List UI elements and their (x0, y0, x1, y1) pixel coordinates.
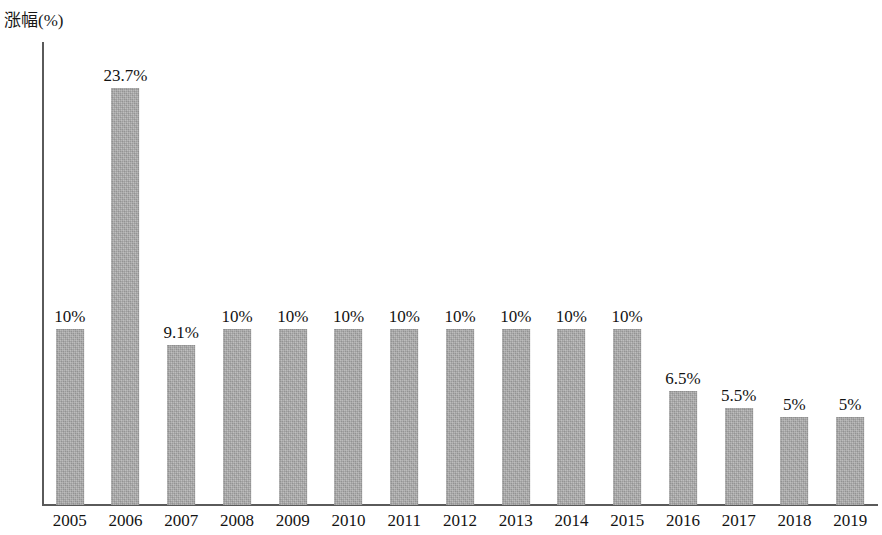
bar-rect[interactable] (557, 329, 585, 505)
bar-rect[interactable] (279, 329, 307, 505)
x-tick-label: 2011 (376, 508, 432, 533)
bar-rect[interactable] (836, 417, 864, 505)
x-tick-label: 2014 (544, 508, 600, 533)
bar-value-label: 10% (277, 307, 308, 326)
bar-group: 6.5% (655, 42, 711, 505)
bar-column: 10% (376, 42, 432, 505)
bar-value-label: 5.5% (721, 386, 756, 405)
x-tick-label: 2010 (321, 508, 377, 533)
x-tick-label: 2015 (599, 508, 655, 533)
x-tick-label: 2018 (767, 508, 823, 533)
bar-column: 10% (42, 42, 98, 505)
bar-rect[interactable] (780, 417, 808, 505)
bar-value-label: 23.7% (104, 66, 148, 85)
bar-rect[interactable] (335, 329, 363, 505)
bar-value-label: 10% (54, 307, 85, 326)
bar-group: 10% (209, 42, 265, 505)
x-tick-label: 2009 (265, 508, 321, 533)
bar-rect[interactable] (502, 329, 530, 505)
bar-group: 10% (544, 42, 600, 505)
bar-rect[interactable] (725, 408, 753, 505)
bar-value-label: 10% (444, 307, 475, 326)
bar-group: 10% (432, 42, 488, 505)
bar-group: 10% (321, 42, 377, 505)
x-axis-tick-labels: 2005200620072008200920102011201220132014… (42, 508, 878, 535)
bar-group: 10% (265, 42, 321, 505)
bar-column: 23.7% (98, 42, 154, 505)
bar-group: 5.5% (711, 42, 767, 505)
bar-column: 5.5% (711, 42, 767, 505)
bar-group: 23.7% (98, 42, 154, 505)
x-tick-label: 2017 (711, 508, 767, 533)
bar-column: 10% (599, 42, 655, 505)
bar-group: 10% (42, 42, 98, 505)
x-tick-label: 2016 (655, 508, 711, 533)
bar-rect[interactable] (112, 88, 140, 505)
bar-value-label: 10% (612, 307, 643, 326)
x-tick-label: 2006 (98, 508, 154, 533)
plot-area: 10%23.7%9.1%10%10%10%10%10%10%10%10%6.5%… (42, 42, 878, 505)
x-tick-label: 2007 (153, 508, 209, 533)
bar-value-label: 10% (389, 307, 420, 326)
bar-column: 5% (822, 42, 878, 505)
bar-group: 9.1% (153, 42, 209, 505)
bar-value-label: 10% (500, 307, 531, 326)
bar-group: 5% (822, 42, 878, 505)
bar-value-label: 5% (783, 395, 806, 414)
bar-value-label: 6.5% (665, 369, 700, 388)
bar-rect[interactable] (223, 329, 251, 505)
bar-value-label: 9.1% (164, 323, 199, 342)
bar-rect[interactable] (167, 345, 195, 505)
bar-rect[interactable] (446, 329, 474, 505)
chart-page: 涨幅(%) 10%23.7%9.1%10%10%10%10%10%10%10%1… (0, 0, 882, 535)
bar-rect[interactable] (390, 329, 418, 505)
x-tick-label: 2013 (488, 508, 544, 533)
bar-rect[interactable] (56, 329, 84, 505)
bar-group: 10% (376, 42, 432, 505)
bar-column: 10% (544, 42, 600, 505)
bar-value-label: 10% (221, 307, 252, 326)
x-tick-label: 2019 (822, 508, 878, 533)
x-tick-label: 2005 (42, 508, 98, 533)
bar-value-label: 10% (333, 307, 364, 326)
bar-column: 5% (767, 42, 823, 505)
bar-group: 10% (488, 42, 544, 505)
bar-column: 9.1% (153, 42, 209, 505)
bar-column: 10% (265, 42, 321, 505)
bar-value-label: 5% (839, 395, 862, 414)
x-tick-label: 2012 (432, 508, 488, 533)
bar-group: 10% (599, 42, 655, 505)
bar-column: 10% (488, 42, 544, 505)
bar-column: 6.5% (655, 42, 711, 505)
bar-column: 10% (209, 42, 265, 505)
bar-rect[interactable] (669, 391, 697, 505)
bar-rect[interactable] (613, 329, 641, 505)
y-axis-title: 涨幅(%) (4, 10, 63, 32)
bar-value-label: 10% (556, 307, 587, 326)
bar-column: 10% (321, 42, 377, 505)
bar-group: 5% (767, 42, 823, 505)
bar-column: 10% (432, 42, 488, 505)
x-tick-label: 2008 (209, 508, 265, 533)
